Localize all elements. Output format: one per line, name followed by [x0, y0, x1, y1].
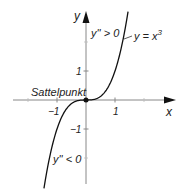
- x-axis-arrow-icon: [164, 97, 176, 104]
- lower-region-label: y'' < 0: [52, 153, 82, 165]
- y-tick-label-1: 1: [76, 66, 82, 77]
- saddle-point-label: Sattelpunkt: [31, 86, 87, 98]
- y-axis-arrow-icon: [83, 11, 90, 23]
- chart: y x −1 1 1 −1 y'' > 0 y'' < 0 Sattelpunk…: [0, 0, 187, 193]
- x-tick-label-neg1: −1: [48, 106, 59, 117]
- y-axis-label: y: [73, 9, 81, 23]
- y-tick-label-neg1: −1: [70, 124, 81, 135]
- x-tick-label-1: 1: [113, 106, 119, 117]
- saddle-point-marker: [84, 98, 89, 103]
- curve-label-leader: [124, 36, 132, 39]
- curve-label: y = x3: [133, 28, 163, 42]
- upper-region-label: y'' > 0: [90, 27, 120, 39]
- x-axis-label: x: [165, 105, 173, 119]
